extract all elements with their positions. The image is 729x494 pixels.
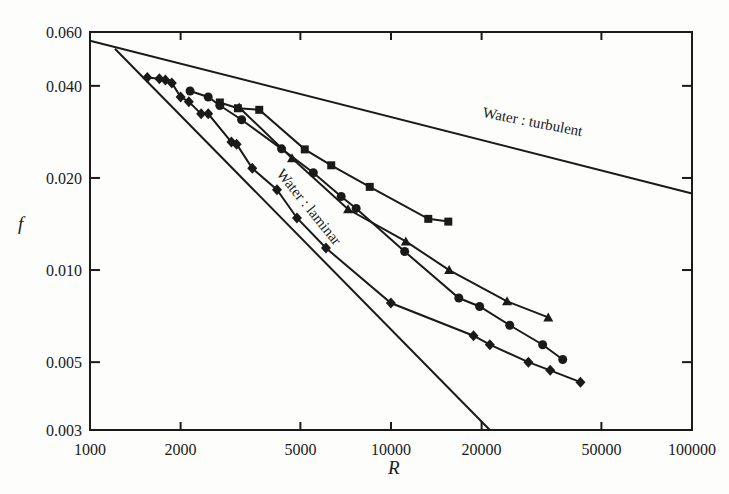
square-marker bbox=[424, 215, 432, 223]
circle-marker bbox=[558, 355, 567, 364]
diamond-marker bbox=[575, 377, 585, 388]
circle-marker bbox=[505, 321, 514, 330]
diamond-marker bbox=[469, 330, 479, 341]
y-tick-label: 0.010 bbox=[46, 262, 82, 279]
y-tick-label: 0.020 bbox=[46, 170, 82, 187]
x-axis: 100020005000100002000050000100000 bbox=[74, 32, 716, 458]
y-tick-label: 0.040 bbox=[46, 78, 82, 95]
circle-marker bbox=[475, 302, 484, 311]
square-marker bbox=[366, 183, 374, 191]
y-tick-label: 0.003 bbox=[46, 422, 82, 439]
x-tick-label: 5000 bbox=[284, 441, 316, 458]
friction-factor-chart: 100020005000100002000050000100000 0.0600… bbox=[0, 0, 729, 494]
y-axis-title: f bbox=[18, 213, 26, 234]
y-tick-label: 0.060 bbox=[46, 24, 82, 41]
triangle-marker bbox=[401, 236, 411, 245]
y-tick-label: 0.005 bbox=[46, 354, 82, 371]
triangle-marker bbox=[444, 265, 454, 274]
triangle-marker bbox=[502, 296, 512, 305]
circle-marker bbox=[454, 294, 463, 303]
circle-marker bbox=[400, 247, 409, 256]
diamond-marker bbox=[523, 357, 533, 368]
circle-marker bbox=[538, 340, 547, 349]
x-tick-label: 100000 bbox=[668, 441, 716, 458]
y-axis: 0.0600.0400.0200.0100.0050.003 bbox=[46, 24, 692, 439]
square-marker bbox=[255, 106, 263, 114]
x-tick-label: 50000 bbox=[581, 441, 621, 458]
circle-marker bbox=[352, 204, 361, 213]
x-axis-title: R bbox=[387, 457, 400, 478]
diamond-marker bbox=[545, 365, 555, 376]
laminar-line-label: Water : laminar bbox=[274, 166, 345, 248]
turbulent-reference-line bbox=[90, 41, 692, 194]
circle-marker bbox=[277, 144, 286, 153]
x-tick-label: 2000 bbox=[165, 441, 197, 458]
triangles-series-line bbox=[239, 107, 548, 317]
diamond-marker bbox=[485, 339, 495, 350]
circle-marker bbox=[215, 101, 224, 110]
laminar-reference-line bbox=[115, 49, 490, 430]
plot-frame bbox=[90, 32, 692, 430]
square-marker bbox=[327, 161, 335, 169]
x-tick-label: 10000 bbox=[371, 441, 411, 458]
circles-series-line bbox=[190, 91, 563, 360]
circle-marker bbox=[186, 86, 195, 95]
diamond-marker bbox=[142, 72, 152, 83]
square-marker bbox=[444, 218, 452, 226]
turbulent-line-label: Water : turbulent bbox=[481, 104, 584, 139]
x-tick-label: 1000 bbox=[74, 441, 106, 458]
x-tick-label: 20000 bbox=[462, 441, 502, 458]
circle-marker bbox=[204, 92, 213, 101]
circle-marker bbox=[237, 115, 246, 124]
square-marker bbox=[301, 145, 309, 153]
circle-marker bbox=[309, 168, 318, 177]
circle-marker bbox=[337, 192, 346, 201]
